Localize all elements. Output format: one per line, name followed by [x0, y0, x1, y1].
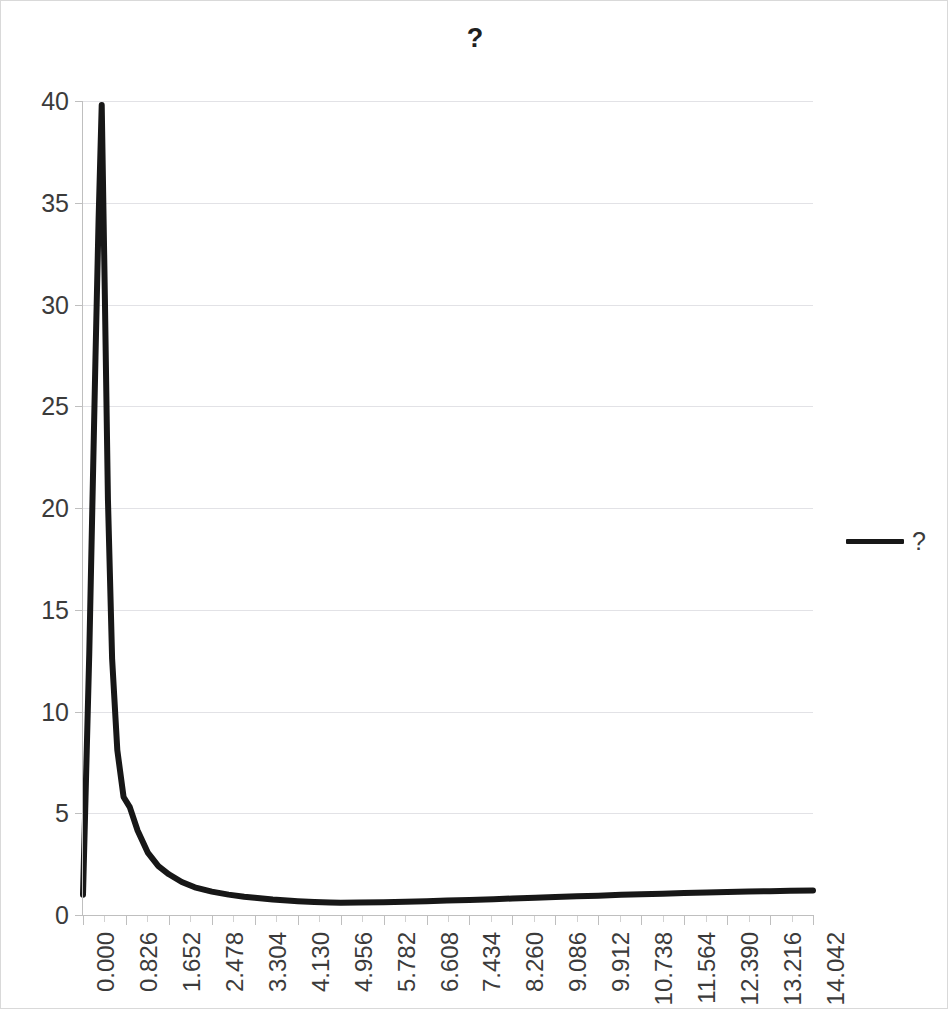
x-tick-label: 4.956 — [350, 932, 378, 992]
y-tick-label: 25 — [13, 392, 69, 421]
x-tick-label: 13.216 — [779, 932, 807, 1005]
x-tick-label: 12.390 — [736, 932, 764, 1005]
x-tick-mark — [83, 916, 84, 925]
x-tick-mark — [727, 916, 728, 925]
x-tick-label: 14.042 — [822, 932, 850, 1005]
y-tick-mark — [75, 508, 83, 509]
x-tick-minor-mark — [448, 916, 449, 922]
x-tick-mark — [212, 916, 213, 925]
y-tick-label: 35 — [13, 188, 69, 217]
x-tick-minor-mark — [749, 916, 750, 922]
x-tick-mark — [469, 916, 470, 925]
x-tick-minor-mark — [534, 916, 535, 922]
y-tick-label: 15 — [13, 595, 69, 624]
x-tick-mark — [555, 916, 556, 925]
x-tick-minor-mark — [491, 916, 492, 922]
x-tick-minor-mark — [577, 916, 578, 922]
x-tick-mark — [684, 916, 685, 925]
x-tick-label: 4.130 — [307, 932, 335, 992]
x-tick-minor-mark — [104, 916, 105, 922]
x-tick-label: 0.000 — [92, 932, 120, 992]
x-tick-mark — [126, 916, 127, 925]
y-tick-mark — [75, 915, 83, 916]
x-tick-minor-mark — [620, 916, 621, 922]
x-tick-label: 7.434 — [478, 932, 506, 992]
y-axis-labels: 0510152025303540 — [7, 1, 69, 1009]
y-tick-mark — [75, 610, 83, 611]
y-tick-label: 0 — [13, 901, 69, 930]
x-tick-label: 0.826 — [135, 932, 163, 992]
x-tick-mark — [255, 916, 256, 925]
x-tick-label: 9.912 — [607, 932, 635, 992]
x-tick-minor-mark — [147, 916, 148, 922]
chart-container: ? 0510152025303540 0.0000.8261.6522.4783… — [0, 0, 948, 1009]
x-tick-mark — [384, 916, 385, 925]
data-series-line — [83, 101, 813, 915]
x-tick-label: 9.086 — [564, 932, 592, 992]
x-tick-label: 3.304 — [264, 932, 292, 992]
x-tick-mark — [641, 916, 642, 925]
x-tick-label: 1.652 — [178, 932, 206, 992]
y-tick-label: 30 — [13, 290, 69, 319]
x-tick-mark — [813, 916, 814, 925]
chart-title: ? — [1, 23, 948, 54]
x-tick-minor-mark — [233, 916, 234, 922]
y-tick-mark — [75, 712, 83, 713]
plot-area — [83, 101, 813, 915]
x-tick-label: 8.260 — [521, 932, 549, 992]
y-tick-mark — [75, 406, 83, 407]
y-tick-label: 10 — [13, 697, 69, 726]
y-tick-mark — [75, 813, 83, 814]
x-tick-minor-mark — [190, 916, 191, 922]
x-tick-minor-mark — [706, 916, 707, 922]
x-tick-mark — [298, 916, 299, 925]
x-tick-label: 6.608 — [436, 932, 464, 992]
y-tick-label: 40 — [13, 87, 69, 116]
legend-label: ? — [912, 529, 926, 554]
y-tick-mark — [75, 203, 83, 204]
x-tick-minor-mark — [663, 916, 664, 922]
x-tick-label: 2.478 — [221, 932, 249, 992]
x-tick-label: 10.738 — [650, 932, 678, 1005]
x-tick-mark — [770, 916, 771, 925]
x-tick-mark — [598, 916, 599, 925]
x-tick-mark — [341, 916, 342, 925]
legend: ? — [846, 529, 926, 554]
legend-line-swatch — [846, 539, 904, 544]
x-tick-mark — [427, 916, 428, 925]
x-tick-minor-mark — [319, 916, 320, 922]
x-tick-mark — [169, 916, 170, 925]
y-tick-label: 5 — [13, 799, 69, 828]
y-tick-label: 20 — [13, 494, 69, 523]
x-tick-mark — [512, 916, 513, 925]
y-tick-mark — [75, 305, 83, 306]
x-tick-label: 5.782 — [393, 932, 421, 992]
x-tick-minor-mark — [405, 916, 406, 922]
y-tick-mark — [75, 101, 83, 102]
x-tick-label: 11.564 — [693, 932, 721, 1004]
x-tick-minor-mark — [792, 916, 793, 922]
x-tick-minor-mark — [362, 916, 363, 922]
x-tick-minor-mark — [276, 916, 277, 922]
